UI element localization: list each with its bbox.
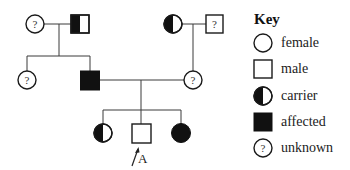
legend-label-female: female [281,35,319,50]
individual-I-2-carrier-male [71,15,89,33]
affected-male-icon [81,71,100,90]
male-icon [132,124,151,143]
individual-I-4-unknown-male: ? [206,15,223,33]
legend: Key female male carrier affected ? unkno… [254,11,333,157]
individual-II-2-affected-male [81,71,100,90]
individual-III-1-carrier-female [94,124,112,142]
pedigree-diagram: ? ? ? ? [0,0,350,170]
legend-label-affected: affected [281,114,326,129]
generation-1-couple-right: ? [164,15,223,71]
circle-icon [254,34,272,52]
individual-II-3-unknown-female: ? [184,71,202,89]
individual-I-1-unknown-female: ? [26,15,44,33]
individual-I-3-carrier-female [164,15,182,33]
individual-II-1-unknown-female: ? [18,71,36,89]
affected-female-icon [172,124,191,143]
individual-III-2-proband-male [132,124,151,143]
proband-marker: A [132,147,148,166]
carrier-half-fill [94,124,103,142]
carrier-half-fill [164,15,173,33]
legend-label-male: male [281,61,308,76]
carrier-half-fill [71,15,80,33]
legend-label-unknown: unknown [281,140,333,155]
filled-square-icon [254,113,272,131]
legend-label-carrier: carrier [281,88,318,103]
generation-1-couple-left: ? [26,15,89,56]
proband-label: A [138,151,148,166]
unknown-mark: ? [191,74,196,86]
unknown-mark: ? [33,18,38,30]
square-icon [254,60,272,78]
unknown-mark: ? [212,18,217,30]
unknown-mark: ? [25,74,30,86]
svg-text:?: ? [261,142,266,154]
individual-III-3-affected-female [172,124,191,143]
legend-title: Key [254,11,280,27]
